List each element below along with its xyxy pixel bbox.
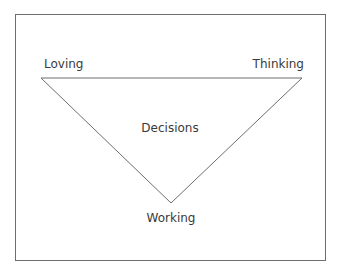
vertex-label-top-right: Thinking	[253, 57, 304, 71]
inverted-triangle	[41, 78, 302, 203]
vertex-label-bottom: Working	[147, 211, 196, 225]
center-label: Decisions	[141, 121, 198, 135]
triangle-shape	[0, 0, 342, 276]
vertex-label-top-left: Loving	[44, 57, 83, 71]
